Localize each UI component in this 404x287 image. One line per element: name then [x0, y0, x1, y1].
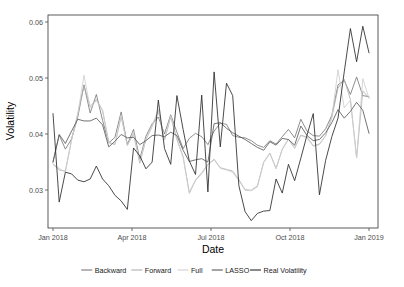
y-tick-label-1: 0.04 — [29, 130, 43, 139]
x-tick-label-3: Oct 2018 — [275, 233, 304, 242]
legend-label-full: Full — [191, 266, 203, 275]
legend-label-lasso: LASSO — [225, 266, 249, 275]
legend-label-forward: Forward — [145, 266, 171, 275]
x-tick-label-2: Jul 2018 — [197, 233, 224, 242]
x-tick-label-0: Jan 2018 — [38, 233, 68, 242]
y-axis-title: Volatility — [4, 101, 16, 140]
y-tick-label-3: 0.06 — [29, 18, 43, 27]
x-tick-label-1: Apr 2018 — [117, 233, 146, 242]
x-tick-label-4: Jan 2019 — [354, 233, 384, 242]
y-tick-label-2: 0.05 — [29, 74, 43, 83]
chart-legend: BackwardForwardFullLASSOReal Volatility — [81, 266, 307, 275]
x-axis-title: Date — [202, 243, 224, 255]
y-tick-label-0: 0.03 — [29, 186, 43, 195]
volatility-line-chart-figure: Jan 2018Apr 2018Jul 2018Oct 2018Jan 2019… — [0, 0, 404, 287]
chart-canvas: Jan 2018Apr 2018Jul 2018Oct 2018Jan 2019… — [0, 0, 404, 287]
legend-label-real-volatility: Real Volatility — [264, 266, 308, 275]
legend-label-backward: Backward — [95, 266, 127, 275]
